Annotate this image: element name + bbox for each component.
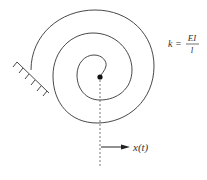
spiral-spring-diagram: x(t) k = EI l — [0, 0, 207, 180]
stiffness-formula: k = EI l — [168, 33, 199, 55]
spiral-spring — [31, 10, 154, 123]
formula-numerator: EI — [187, 33, 197, 43]
displacement-arrow-icon — [101, 145, 130, 150]
pivot-dot — [97, 74, 102, 79]
formula-lhs: k = — [168, 38, 182, 49]
displacement-label: x(t) — [132, 141, 149, 154]
formula-denominator: l — [191, 45, 194, 55]
